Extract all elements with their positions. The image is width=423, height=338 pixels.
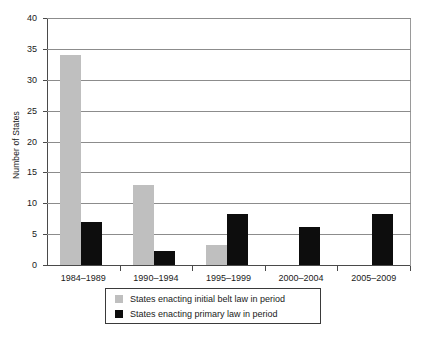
bar-chart: Number of States 0510152025303540 1984–1… — [0, 0, 423, 338]
bar — [227, 214, 248, 265]
y-tick-label: 30 — [7, 76, 37, 85]
y-tick-label: 20 — [7, 138, 37, 147]
x-axis-label: 1995–1999 — [192, 273, 265, 283]
bar — [206, 245, 227, 265]
x-tick-mark — [192, 266, 193, 271]
legend-label-primary-law: States enacting primary law in period — [130, 309, 278, 319]
y-tick-label: 40 — [7, 14, 37, 23]
legend: States enacting initial belt law in peri… — [105, 288, 321, 324]
x-axis-label: 2005–2009 — [337, 273, 410, 283]
legend-label-initial-belt-law: States enacting initial belt law in peri… — [130, 294, 285, 304]
y-tick-mark — [43, 265, 47, 266]
bar — [133, 185, 154, 265]
x-axis-line — [47, 265, 411, 266]
y-tick-label: 10 — [7, 199, 37, 208]
y-tick-label: 15 — [7, 168, 37, 177]
x-tick-mark — [265, 266, 266, 271]
bar — [60, 55, 81, 265]
x-tick-mark — [120, 266, 121, 271]
bar — [299, 227, 320, 265]
legend-swatch-primary-law — [115, 310, 123, 318]
x-axis-label: 1984–1989 — [47, 273, 120, 283]
legend-entry-initial-belt-law: States enacting initial belt law in peri… — [115, 292, 285, 306]
legend-swatch-initial-belt-law — [115, 295, 123, 303]
x-tick-mark — [337, 266, 338, 271]
y-tick-label: 5 — [7, 230, 37, 239]
bar — [81, 222, 102, 265]
bar — [372, 214, 393, 265]
y-tick-label: 25 — [7, 107, 37, 116]
legend-entry-primary-law: States enacting primary law in period — [115, 307, 278, 321]
bar — [154, 251, 175, 265]
y-tick-label: 0 — [7, 261, 37, 270]
x-tick-mark — [410, 266, 411, 271]
bars-layer — [47, 18, 410, 265]
x-axis-label: 1990–1994 — [120, 273, 193, 283]
x-axis-label: 2000–2004 — [265, 273, 338, 283]
y-tick-label: 35 — [7, 45, 37, 54]
